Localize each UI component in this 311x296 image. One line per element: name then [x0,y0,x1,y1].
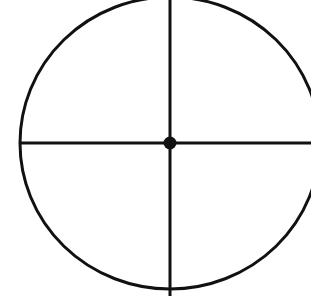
figure-canvas [0,0,311,296]
center-point-dot [164,137,177,150]
circle-diagram-svg [0,0,311,296]
background-rect [0,0,311,296]
